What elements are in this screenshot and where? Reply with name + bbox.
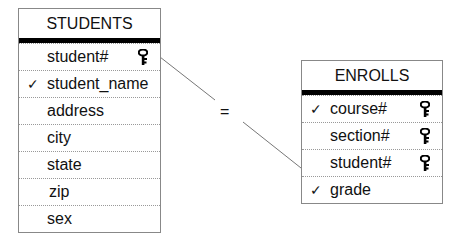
primary-key-icon bbox=[420, 101, 430, 117]
attribute-row[interactable]: state bbox=[19, 151, 160, 178]
primary-key-icon bbox=[420, 128, 430, 144]
attribute-row[interactable]: section# bbox=[302, 122, 442, 149]
primary-key-icon bbox=[420, 155, 430, 171]
enrolls-entity[interactable]: ENROLLS ✓course# section# student# ✓grad… bbox=[301, 60, 443, 204]
attribute-name: address bbox=[47, 98, 104, 124]
attribute-row[interactable]: ✓grade bbox=[302, 176, 442, 203]
attribute-name: state bbox=[47, 152, 82, 178]
attribute-row[interactable]: zip bbox=[19, 178, 160, 205]
attribute-row[interactable]: sex bbox=[19, 205, 160, 232]
attribute-row[interactable]: student# bbox=[19, 43, 160, 70]
attribute-row[interactable]: city bbox=[19, 124, 160, 151]
students-title: STUDENTS bbox=[19, 9, 160, 38]
attribute-name: section# bbox=[330, 123, 390, 149]
students-entity[interactable]: STUDENTS student# ✓student_name address … bbox=[18, 8, 161, 233]
attribute-name: course# bbox=[330, 96, 387, 122]
check-icon: ✓ bbox=[310, 177, 322, 203]
attribute-name: city bbox=[47, 125, 71, 151]
attribute-name: zip bbox=[49, 179, 69, 205]
attribute-row[interactable]: student# bbox=[302, 149, 442, 176]
attribute-row[interactable]: ✓student_name bbox=[19, 70, 160, 97]
attribute-name: student# bbox=[330, 150, 391, 176]
check-icon: ✓ bbox=[310, 96, 322, 122]
check-icon: ✓ bbox=[27, 71, 39, 97]
enrolls-title: ENROLLS bbox=[302, 61, 442, 90]
primary-key-icon bbox=[138, 49, 148, 65]
attribute-row[interactable]: address bbox=[19, 97, 160, 124]
attribute-row[interactable]: ✓course# bbox=[302, 95, 442, 122]
attribute-name: student_name bbox=[47, 71, 148, 97]
join-equals-symbol: = bbox=[220, 103, 229, 121]
attribute-name: sex bbox=[47, 206, 72, 232]
attribute-name: grade bbox=[330, 177, 371, 203]
attribute-name: student# bbox=[47, 44, 108, 70]
